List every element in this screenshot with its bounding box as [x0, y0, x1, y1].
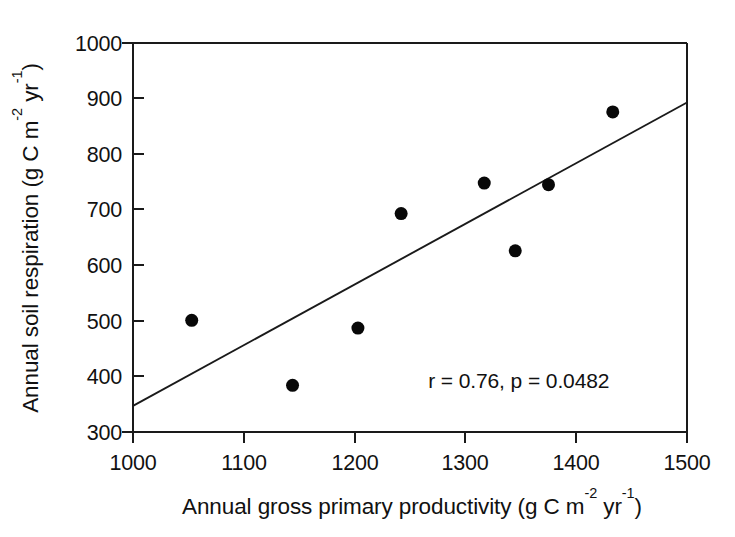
y-tick-label-900: 900 [87, 87, 123, 111]
x-axis-title-superscript-minus1: -1 [622, 485, 635, 501]
y-axis-title-tail: ) [18, 63, 43, 70]
x-tick-label-1200: 1200 [331, 451, 378, 475]
x-axis-title-tail: ) [635, 494, 642, 519]
y-tick-label-800: 800 [87, 143, 123, 167]
data-point [286, 379, 299, 392]
x-tick-label-1400: 1400 [552, 451, 599, 475]
y-tick-label-300: 300 [87, 421, 123, 445]
data-point [542, 178, 555, 191]
data-point [351, 322, 364, 335]
y-tick-label-700: 700 [87, 198, 123, 222]
y-axis-title-base: Annual soil respiration (g C m [18, 121, 43, 413]
x-tick-label-1100: 1100 [221, 451, 267, 475]
y-axis-title-superscript-minus2: -2 [9, 108, 25, 121]
data-point [185, 314, 198, 327]
y-tick-label-500: 500 [87, 310, 123, 334]
data-points-layer [185, 105, 619, 391]
chart-canvas: 1000 900 800 700 600 500 400 300 1000 11… [0, 0, 735, 537]
x-tick-label-1300: 1300 [441, 451, 488, 475]
x-axis-ticks [133, 432, 687, 443]
x-axis-title: Annual gross primary productivity (g C m… [182, 485, 642, 519]
y-tick-label-1000: 1000 [75, 32, 122, 56]
data-point [478, 177, 491, 190]
x-tick-label-1500: 1500 [663, 451, 710, 475]
x-axis-title-superscript-minus2: -2 [584, 485, 597, 501]
y-axis-title: Annual soil respiration (g C m-2 yr-1) [9, 63, 43, 413]
x-tick-label-1000: 1000 [109, 451, 156, 475]
data-point [395, 207, 408, 220]
y-axis-title-superscript-minus1: -1 [9, 71, 25, 84]
statistics-annotation: r = 0.76, p = 0.0482 [428, 369, 609, 392]
y-tick-label-600: 600 [87, 254, 123, 278]
regression-trend-line [133, 102, 687, 405]
y-tick-label-400: 400 [87, 365, 123, 389]
x-axis-title-mid: yr [597, 494, 622, 519]
y-axis-title-mid: yr [18, 83, 43, 108]
data-point [509, 244, 522, 257]
scatter-plot-figure: 1000 900 800 700 600 500 400 300 1000 11… [0, 0, 735, 537]
x-axis-title-base: Annual gross primary productivity (g C m [182, 494, 584, 519]
data-point [606, 105, 619, 118]
x-tick-labels: 1000 1100 1200 1300 1400 1500 [109, 451, 710, 475]
y-tick-labels: 1000 900 800 700 600 500 400 300 [75, 32, 122, 445]
